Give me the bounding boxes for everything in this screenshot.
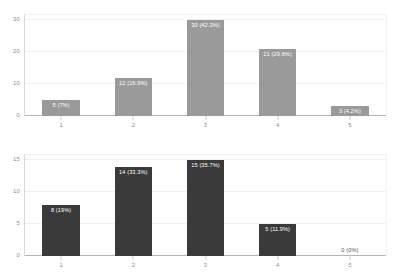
top-xtick-5: 5 — [348, 122, 351, 128]
bottom-bar-1[interactable]: 8 (19%) — [42, 205, 80, 256]
top-ytick-30: 30 — [13, 16, 20, 22]
bottom-ytick-10: 10 — [13, 188, 20, 194]
bottom-bar-cell-5: 0 (0%) 5 — [314, 155, 386, 256]
top-xtickmark-4 — [277, 116, 278, 120]
bottom-xtickmark-4 — [277, 256, 278, 260]
bottom-bar-cell-3: 15 (35.7%) 3 — [169, 155, 241, 256]
top-xtickmark-2 — [133, 116, 134, 120]
bottom-bar-3-label: 15 (35.7%) — [191, 162, 219, 168]
bottom-plot-area: 15 10 5 0 8 (19%) 1 — [24, 154, 387, 256]
top-ytick-0: 0 — [16, 112, 20, 118]
bottom-bars-container: 8 (19%) 1 14 (33.3%) 2 15 (35.7%) — [25, 155, 386, 256]
bottom-xtick-2: 2 — [132, 262, 135, 268]
bottom-ytick-0: 0 — [16, 252, 20, 258]
bottom-bar-cell-1: 8 (19%) 1 — [25, 155, 97, 256]
top-bar-1[interactable]: 5 (7%) — [42, 100, 80, 116]
bottom-xtick-3: 3 — [204, 262, 207, 268]
bottom-bar-4[interactable]: 5 (11.9%) — [259, 224, 297, 256]
top-bar-3-label: 30 (42.3%) — [191, 22, 219, 28]
bottom-xtickmark-1 — [61, 256, 62, 260]
bottom-ytick-5: 5 — [16, 220, 20, 226]
top-bar-2[interactable]: 12 (16.9%) — [115, 78, 153, 116]
top-bar-5-label: 3 (4.2%) — [339, 108, 361, 114]
bottom-bar-4-label: 5 (11.9%) — [265, 226, 290, 232]
bottom-bar-2[interactable]: 14 (33.3%) — [115, 167, 153, 256]
top-bar-cell-1: 5 (7%) 1 — [25, 15, 97, 116]
bottom-xtickmark-5 — [349, 256, 350, 260]
bottom-bar-cell-4: 5 (11.9%) 4 — [242, 155, 314, 256]
top-ytick-10: 10 — [13, 80, 20, 86]
bottom-xtick-5: 5 — [348, 262, 351, 268]
top-bar-2-label: 12 (16.9%) — [119, 80, 147, 86]
top-bar-cell-4: 21 (29.6%) 4 — [242, 15, 314, 116]
top-bar-cell-2: 12 (16.9%) 2 — [97, 15, 169, 116]
bottom-ytick-15: 15 — [13, 156, 20, 162]
top-bar-3[interactable]: 30 (42.3%) — [187, 20, 225, 116]
top-xtickmark-3 — [205, 116, 206, 120]
top-xtickmark-5 — [349, 116, 350, 120]
top-bar-1-label: 5 (7%) — [53, 102, 70, 108]
top-bar-4[interactable]: 21 (29.6%) — [259, 49, 297, 116]
top-xtick-1: 1 — [59, 122, 62, 128]
top-ytick-20: 20 — [13, 48, 20, 54]
bottom-bar-2-label: 14 (33.3%) — [119, 169, 147, 175]
dual-bar-chart-figure: 30 20 10 0 5 (7%) 1 — [0, 0, 397, 280]
bottom-bar-3[interactable]: 15 (35.7%) — [187, 160, 225, 256]
bottom-bar-chart: 15 10 5 0 8 (19%) 1 — [0, 140, 397, 280]
top-xtick-4: 4 — [276, 122, 279, 128]
bottom-bar-cell-2: 14 (33.3%) 2 — [97, 155, 169, 256]
top-bar-4-label: 21 (29.6%) — [264, 51, 292, 57]
top-plot-area: 30 20 10 0 5 (7%) 1 — [24, 14, 387, 116]
top-bar-cell-5: 3 (4.2%) 5 — [314, 15, 386, 116]
top-bar-cell-3: 30 (42.3%) 3 — [169, 15, 241, 116]
bottom-bar-5-label: 0 (0%) — [341, 247, 358, 253]
bottom-xtickmark-2 — [133, 256, 134, 260]
top-xtick-2: 2 — [132, 122, 135, 128]
top-xtick-3: 3 — [204, 122, 207, 128]
top-xtickmark-1 — [61, 116, 62, 120]
top-bar-5[interactable]: 3 (4.2%) — [331, 106, 369, 116]
top-bar-chart: 30 20 10 0 5 (7%) 1 — [0, 0, 397, 140]
bottom-bar-1-label: 8 (19%) — [51, 207, 71, 213]
bottom-xtick-4: 4 — [276, 262, 279, 268]
bottom-xtick-1: 1 — [59, 262, 62, 268]
top-bars-container: 5 (7%) 1 12 (16.9%) 2 30 (42.3%) — [25, 15, 386, 116]
bottom-xtickmark-3 — [205, 256, 206, 260]
